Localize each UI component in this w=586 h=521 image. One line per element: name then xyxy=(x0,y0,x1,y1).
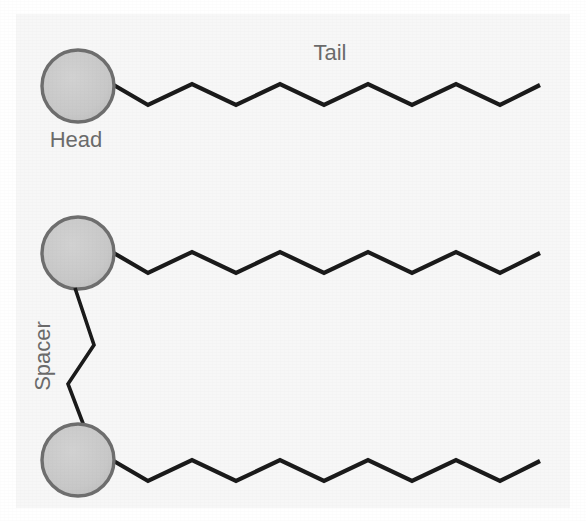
margin-bottom xyxy=(0,508,586,521)
margin-top xyxy=(0,0,586,14)
head-group-bottom xyxy=(42,424,114,496)
margin-right xyxy=(570,0,586,521)
diagram-canvas: Tail Head Spacer xyxy=(0,0,586,521)
head-label: Head xyxy=(50,127,103,152)
head-group-middle xyxy=(42,217,114,289)
head-group-top xyxy=(42,50,114,122)
surfactant-diagram-figure: surfactants, the most common ofamphiphil… xyxy=(0,0,586,521)
tail-label: Tail xyxy=(313,40,346,65)
spacer-label: Spacer xyxy=(30,321,55,391)
margin-left xyxy=(0,0,16,521)
